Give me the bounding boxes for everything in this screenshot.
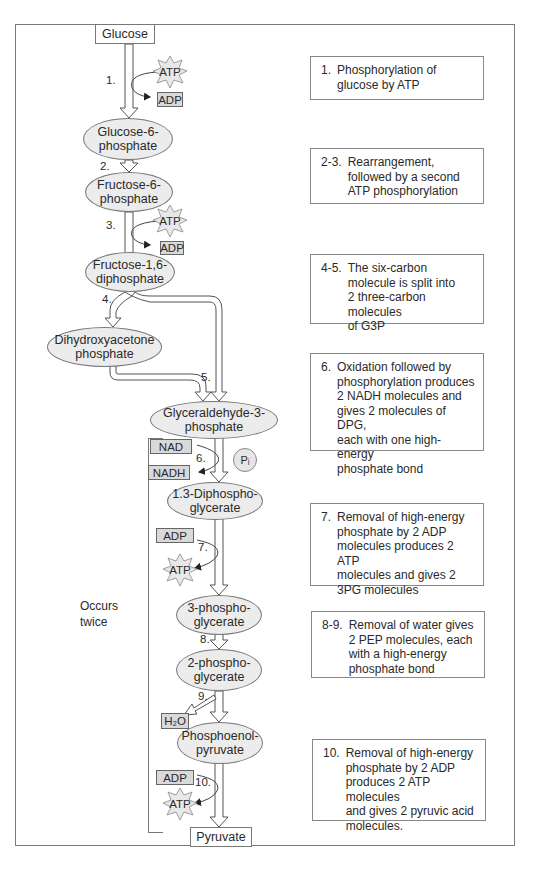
adp-tag: ADP	[156, 528, 194, 543]
node-glucose: Glucose	[95, 24, 155, 44]
atp-icon: ATP	[163, 558, 197, 582]
step-label-9: 9.	[198, 690, 208, 702]
atp-icon: ATP	[153, 60, 187, 84]
node-dihydroxyacetone-phosphate: Dihydroxyacetone phosphate	[47, 327, 162, 367]
step-label-10: 10.	[195, 776, 211, 788]
node-2-phosphoglycerate: 2-phospho- glycerate	[176, 649, 262, 691]
node-glyceraldehyde-3-phosphate: Glyceraldehyde-3- phosphate	[150, 401, 278, 439]
nad-tag: NAD	[150, 439, 192, 454]
step-label-4: 4.	[102, 293, 112, 305]
description-box-1: 1. Phosphorylation of glucose by ATP	[310, 56, 484, 100]
nadh-tag: NADH	[148, 465, 190, 480]
node-fructose-1-6-diphosphate: Fructose-1,6- diphosphate	[85, 252, 175, 292]
atp-icon: ATP	[163, 792, 197, 816]
node-glucose-6-phosphate: Glucose-6- phosphate	[83, 118, 173, 160]
description-box-7: 7. Removal of high-energy phosphate by 2…	[310, 503, 484, 586]
step-label-1: 1.	[106, 74, 116, 86]
description-box-8-9: 8-9. Removal of water gives 2 PEP molecu…	[311, 611, 485, 678]
step-label-6: 6.	[196, 452, 206, 464]
node-fructose-6-phosphate: Fructose-6- phosphate	[85, 172, 173, 212]
description-box-10: 10. Removal of high-energy phosphate by …	[312, 739, 486, 821]
step-label-2: 2.	[100, 160, 110, 172]
step-label-3: 3.	[106, 219, 116, 231]
atp-icon: ATP	[153, 209, 187, 233]
adp-tag: ADP	[160, 241, 184, 255]
node-pyruvate: Pyruvate	[190, 827, 252, 847]
description-box-2-3: 2-3. Rearrangement, followed by a second…	[310, 148, 484, 204]
adp-tag: ADP	[157, 92, 183, 107]
node-1-3-diphosphoglycerate: 1.3-Diphospho- glycerate	[167, 482, 263, 520]
occurs-twice-label: Occurs twice	[80, 598, 118, 630]
step-label-7: 7.	[198, 541, 208, 553]
description-box-6: 6. Oxidation followed by phosphorylation…	[310, 353, 484, 451]
node-phosphoenolpyruvate: Phosphoenol- pyruvate	[177, 722, 263, 764]
step-label-5: 5.	[201, 371, 211, 383]
water-tag: H₂O	[161, 713, 189, 729]
description-box-4-5: 4-5. The six-carbon molecule is split in…	[310, 254, 484, 324]
adp-tag: ADP	[156, 770, 194, 785]
node-3-phosphoglycerate: 3-phospho- glycerate	[176, 595, 262, 635]
step-label-8: 8.	[200, 633, 210, 645]
phosphate-pi-icon: Pᵢ	[233, 448, 257, 472]
